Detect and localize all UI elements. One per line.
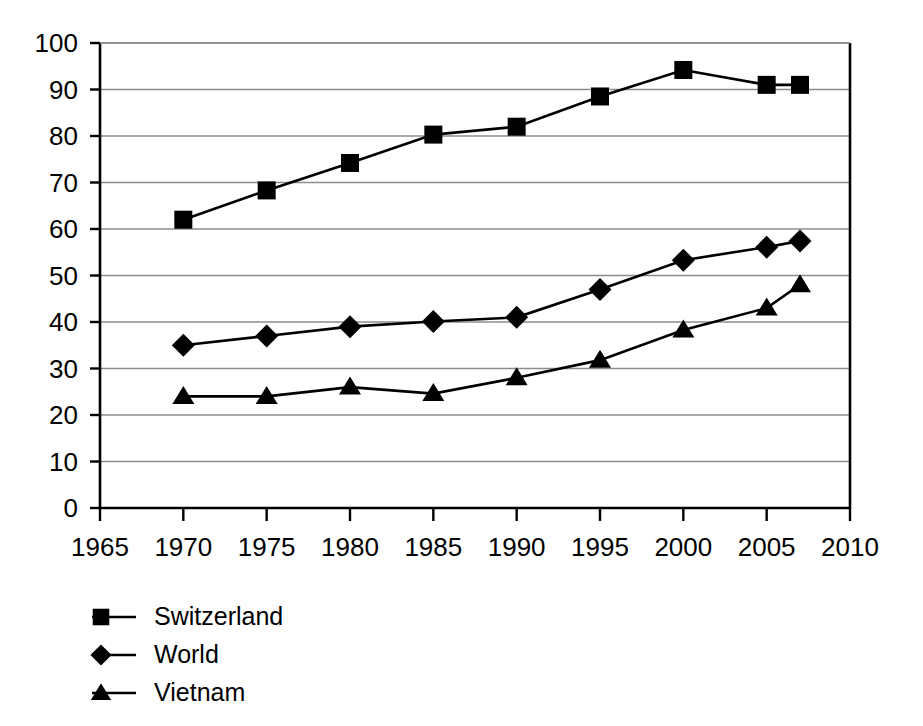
y-axis-tick-label: 90 <box>49 75 78 105</box>
line-chart: 0102030405060708090100 19651970197519801… <box>0 0 923 726</box>
y-axis-tick-label: 20 <box>49 400 78 430</box>
y-axis-tick-label: 10 <box>49 447 78 477</box>
marker-square <box>258 181 276 199</box>
marker-square <box>424 126 442 144</box>
x-axis-tick-label: 2005 <box>738 532 796 562</box>
x-axis-tick-label: 1995 <box>571 532 629 562</box>
marker-square <box>93 609 110 626</box>
y-axis-tick-label: 60 <box>49 214 78 244</box>
y-axis-tick-label: 30 <box>49 354 78 384</box>
chart-background <box>0 0 923 726</box>
x-axis-tick-label: 2010 <box>821 532 879 562</box>
marker-square <box>591 87 609 105</box>
x-axis-tick-label: 2000 <box>654 532 712 562</box>
marker-square <box>674 61 692 79</box>
x-axis-tick-label: 1970 <box>154 532 212 562</box>
y-axis-tick-label: 100 <box>35 28 78 58</box>
marker-square <box>174 211 192 229</box>
x-axis-tick-label: 1980 <box>321 532 379 562</box>
legend-label: Switzerland <box>154 602 283 630</box>
marker-square <box>341 154 359 172</box>
y-axis-tick-label: 80 <box>49 121 78 151</box>
y-axis-tick-label: 0 <box>64 493 78 523</box>
y-axis-tick-label: 50 <box>49 261 78 291</box>
marker-square <box>508 118 526 136</box>
y-axis-tick-label: 40 <box>49 307 78 337</box>
marker-square <box>791 76 809 94</box>
x-axis-tick-label: 1975 <box>238 532 296 562</box>
x-axis-tick-label: 1965 <box>71 532 129 562</box>
legend-label: Vietnam <box>154 678 245 706</box>
marker-square <box>758 76 776 94</box>
x-axis-tick-label: 1985 <box>404 532 462 562</box>
x-axis-tick-label: 1990 <box>488 532 546 562</box>
legend-label: World <box>154 640 219 668</box>
chart-container: 0102030405060708090100 19651970197519801… <box>0 0 923 726</box>
y-axis-tick-label: 70 <box>49 168 78 198</box>
